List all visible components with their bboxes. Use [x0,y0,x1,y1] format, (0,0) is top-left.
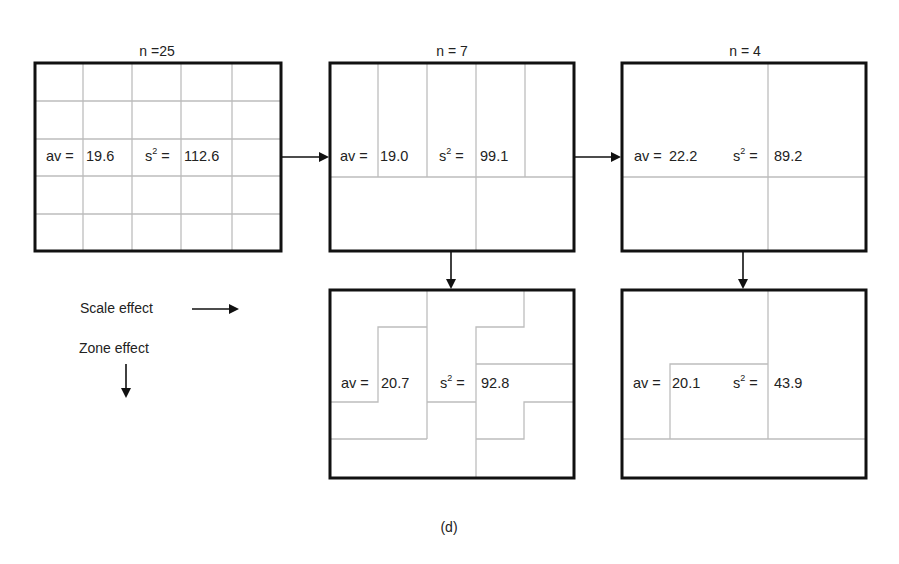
panel-n7-count-label: n = 7 [436,44,468,58]
legend-zone-effect-label: Zone effect [79,341,149,355]
panel-n7-variance-label: s2 = [439,149,464,164]
panel-n4-variance-label: s2 = [733,149,758,164]
panel-n25-av-value: 19.6 [86,149,114,164]
panel-n4-zoned-av-value: 20.1 [672,376,700,391]
panel-n7-av-label: av = [340,149,368,164]
panel-n4-zoned-av-label: av = [633,376,661,391]
panel-n4-av-label: av = [634,149,662,164]
legend-scale-effect-label: Scale effect [80,301,153,315]
maup-diagram [0,0,899,564]
zone-arrows [451,252,743,287]
panel-n4-variance-value: 89.2 [774,149,802,164]
figure-caption: (d) [440,520,457,534]
panel-n7-zoned-av-value: 20.7 [381,376,409,391]
panel-n4-count-label: n = 4 [729,44,761,58]
panel-n7-av-value: 19.0 [380,149,408,164]
panel-n25-variance-value: 112.6 [184,149,219,164]
panel-n7-zoned-variance-label: s2 = [440,376,465,391]
panel-n25-count-label: n =25 [139,44,174,58]
panel-n25-av-label: av = [46,149,74,164]
panel-n7-zoned-av-label: av = [341,376,369,391]
panel-n25-variance-label: s2 = [145,149,170,164]
panel-n4-zoned-variance-value: 43.9 [774,376,802,391]
panel-n7-variance-value: 99.1 [480,149,508,164]
panel-n4-zoned-variance-label: s2 = [733,376,758,391]
panel-n7-zoned-variance-value: 92.8 [481,376,509,391]
panel-n4-av-value: 22.2 [669,149,697,164]
